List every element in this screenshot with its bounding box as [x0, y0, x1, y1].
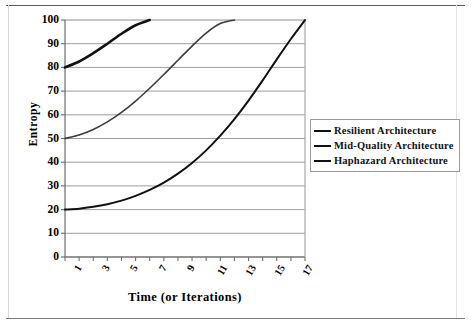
legend-line-swatch-haphazard: [314, 160, 331, 162]
legend-item: Resilient Architecture: [314, 123, 454, 138]
legend-label-haphazard: Haphazard Architecture: [334, 155, 448, 166]
chart-figure: 0102030405060708090100 1357911131517 Ent…: [0, 0, 471, 331]
y-tick-label: 80: [17, 60, 59, 72]
x-axis-title: Time (or Iterations): [65, 290, 305, 305]
series-line-1: [65, 20, 234, 139]
legend-item: Haphazard Architecture: [314, 153, 454, 168]
y-tick-label: 100: [17, 13, 59, 25]
y-tick-label: 90: [17, 37, 59, 49]
y-axis-title: Entropy: [27, 79, 39, 169]
y-tick-label: 0: [17, 250, 59, 262]
y-tick-label: 10: [17, 226, 59, 238]
legend-label-mid-quality: Mid-Quality Architecture: [334, 140, 454, 151]
y-tick-label: 30: [17, 179, 59, 191]
legend-item: Mid-Quality Architecture: [314, 138, 454, 153]
legend-line-swatch-resilient: [314, 130, 331, 132]
legend-line-swatch-mid-quality: [314, 145, 331, 147]
legend-label-resilient: Resilient Architecture: [334, 125, 436, 136]
chart-legend: Resilient Architecture Mid-Quality Archi…: [310, 119, 460, 172]
y-tick-label: 20: [17, 203, 59, 215]
gridlines: [65, 20, 305, 257]
